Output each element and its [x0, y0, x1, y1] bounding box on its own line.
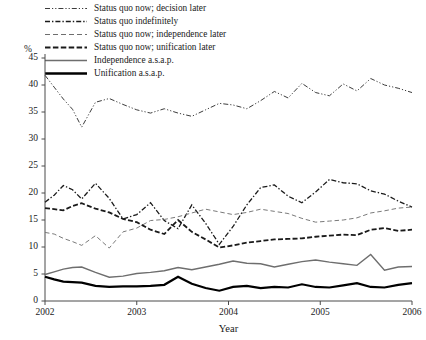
series-line: [45, 75, 412, 127]
series-line: [45, 203, 412, 247]
series-line: [45, 255, 412, 278]
series-line: [45, 277, 412, 291]
series-line: [45, 207, 412, 248]
chart-figure: Status quo now; decision later Status qu…: [0, 0, 426, 340]
plot-area: [0, 0, 426, 340]
series-line: [45, 180, 412, 245]
